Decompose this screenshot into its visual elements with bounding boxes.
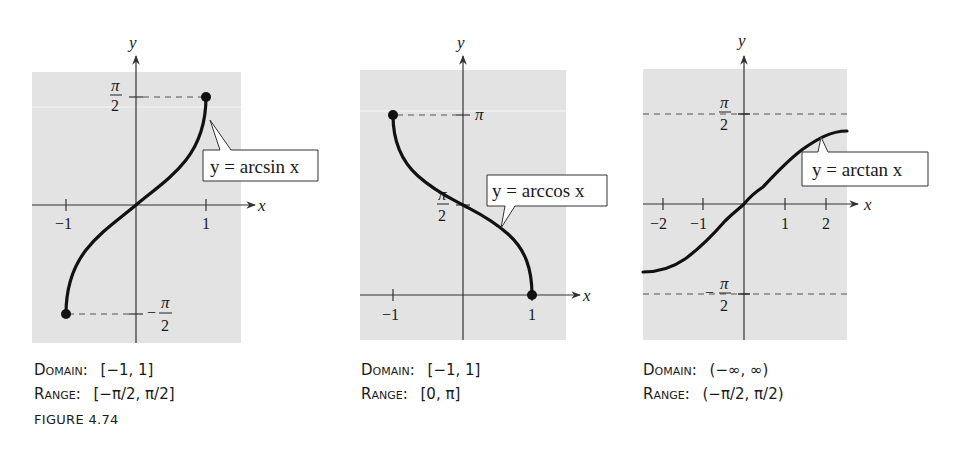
x-tick-label: 1 [781, 215, 789, 232]
range-value: (−π/2, π/2) [703, 385, 784, 403]
x-tick-label: −1 [690, 215, 707, 232]
y-tick-label-pi: π [475, 105, 484, 124]
domain-line: Domain: [−1, 1] [34, 360, 175, 380]
domain-value: [−1, 1] [428, 361, 481, 379]
x-tick-label: −1 [55, 215, 72, 232]
range-label: Range: [643, 385, 690, 403]
domain-label: Domain: [361, 361, 415, 379]
domain-line: Domain: [−1, 1] [361, 360, 480, 380]
endpoint-closed [201, 92, 211, 102]
caption-arccos: Domain: [−1, 1] Range: [0, π] [361, 360, 480, 404]
svg-text:π: π [161, 293, 170, 312]
callout-label: y = arctan x [812, 159, 903, 180]
endpoint-closed [527, 290, 537, 300]
x-tick-label: −2 [650, 215, 667, 232]
svg-text:2: 2 [720, 297, 728, 314]
x-tick-label: 1 [528, 306, 536, 323]
graph-arcsin: x y −1 1 π 2 − π 2 y = arcsin x [32, 33, 318, 343]
y-axis-label: y [455, 33, 465, 52]
x-tick-label: 2 [822, 215, 830, 232]
domain-value: (−∞, ∞) [710, 361, 769, 379]
x-axis-label: x [863, 195, 872, 214]
figure-label: FIGURE 4.74 [34, 412, 119, 427]
callout-label: y = arccos x [492, 180, 585, 201]
range-line: Range: [0, π] [361, 384, 480, 404]
endpoint-closed [388, 110, 398, 120]
range-value: [0, π] [421, 385, 461, 403]
range-value: [−π/2, π/2] [94, 385, 175, 403]
svg-text:−: − [705, 284, 714, 301]
domain-label: Domain: [34, 361, 88, 379]
svg-text:π: π [111, 76, 120, 95]
callout-label: y = arcsin x [210, 156, 300, 177]
domain-label: Domain: [643, 361, 697, 379]
svg-text:2: 2 [161, 317, 169, 334]
y-axis-label: y [736, 31, 746, 50]
svg-text:2: 2 [438, 207, 446, 224]
endpoint-closed [61, 309, 71, 319]
svg-text:2: 2 [111, 97, 119, 114]
x-axis-label: x [257, 196, 266, 215]
domain-value: [−1, 1] [101, 361, 154, 379]
svg-text:π: π [720, 93, 729, 112]
x-tick-label: 1 [202, 215, 210, 232]
callout-arctan: y = arctan x [802, 137, 928, 186]
range-line: Range: [−π/2, π/2] [34, 384, 175, 404]
svg-text:−: − [147, 304, 156, 321]
x-tick-label: −1 [382, 306, 399, 323]
svg-text:π: π [720, 274, 729, 293]
range-label: Range: [34, 385, 81, 403]
svg-text:2: 2 [720, 116, 728, 133]
range-line: Range: (−π/2, π/2) [643, 384, 784, 404]
graph-arctan: x y −2 −1 1 2 π 2 − π 2 y = arctan x [643, 31, 928, 340]
domain-line: Domain: (−∞, ∞) [643, 360, 784, 380]
graph-arccos: x y −1 1 π π 2 y = arccos x [360, 33, 607, 340]
y-axis-label: y [127, 33, 137, 52]
range-label: Range: [361, 385, 408, 403]
x-axis-label: x [582, 286, 591, 305]
caption-arcsin: Domain: [−1, 1] Range: [−π/2, π/2] [34, 360, 175, 404]
caption-arctan: Domain: (−∞, ∞) Range: (−π/2, π/2) [643, 360, 784, 404]
